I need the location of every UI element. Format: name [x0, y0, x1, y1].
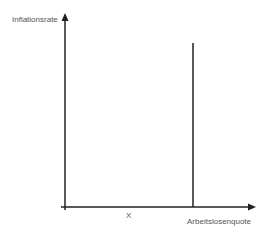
y-axis-arrow-icon	[62, 13, 69, 21]
y-axis-label: Inflationsrate	[12, 15, 58, 24]
x-axis-arrow-icon	[248, 204, 256, 211]
x-axis	[61, 204, 256, 211]
x-axis-label: Arbeitslosenquote	[187, 217, 251, 226]
x-marker-label: X	[126, 211, 131, 220]
diagram-canvas	[0, 0, 268, 237]
y-axis	[62, 13, 69, 210]
